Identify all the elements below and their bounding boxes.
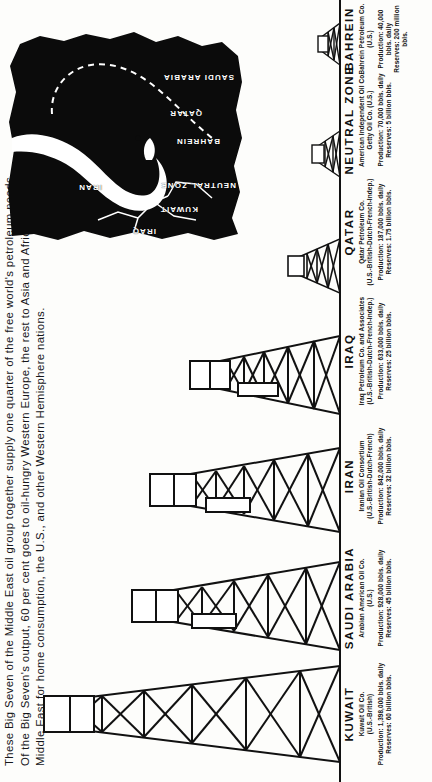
country-label-strip: KUWAIT Kuwait Oil Co. (U.S.-British) Pro… — [341, 0, 432, 782]
derrick-kuwait — [40, 662, 340, 766]
company-owners: (U.S.) — [366, 538, 374, 658]
derrick-iraq — [188, 332, 340, 418]
country-name: QATAR — [343, 170, 356, 294]
company-name: Iranian Oil Consortium — [358, 414, 366, 538]
derrick-crown-block — [288, 256, 304, 276]
derrick-saudi-arabia — [130, 558, 340, 654]
company-name: Arabian American Oil Co. — [358, 538, 366, 658]
derrick-qatar — [286, 236, 340, 296]
country-name: IRAQ — [343, 286, 356, 416]
column-iran: IRAN Iranian Oil Consortium (U.S.-Britis… — [343, 414, 393, 538]
country-name: KUWAIT — [343, 656, 356, 772]
country-name: NEUTRAL ZONE — [343, 60, 356, 180]
country-name: BAHREIN — [343, 2, 356, 76]
column-kuwait: KUWAIT Kuwait Oil Co. (U.S.-British) Pro… — [343, 656, 393, 772]
production-stat: Production: 842,000 bbls. daily — [377, 414, 385, 538]
derrick-mid-platform — [192, 614, 236, 628]
company-name: Qatar Petroleum Co. — [358, 170, 366, 294]
column-qatar: QATAR Qatar Petroleum Co. (U.S.-British-… — [343, 170, 393, 294]
reserves-stat: Reserves: 1.75 billion bbls. — [385, 170, 393, 294]
derrick-crown-block — [318, 36, 328, 52]
derrick-chart — [40, 0, 340, 782]
company-owners: (U.S.) — [366, 2, 374, 76]
company-name: American Independent Oil Co. — [358, 60, 366, 180]
reserves-stat: Reserves: 32 billion bbls. — [385, 414, 393, 538]
country-name: SAUDI ARABIA — [343, 538, 356, 658]
column-bahrein: BAHREIN Bahrein Petroleum Co. (U.S.) Pro… — [343, 2, 408, 76]
company-name: Kuwait Oil Co. — [358, 656, 366, 772]
company-owners: Getty Oil Co. (U.S.) — [366, 60, 374, 180]
derrick-saudi-arabia-tower — [130, 558, 340, 654]
column-saudi-arabia: SAUDI ARABIA Arabian American Oil Co. (U… — [343, 538, 393, 658]
production-stat: Production: 1,398,000 bbls. daily — [377, 656, 385, 772]
infographic-page: These Big Seven of the Middle East oil g… — [0, 0, 432, 782]
production-stat: Production: 928,000 bbls. daily — [377, 538, 385, 658]
production-stat: Production: 40,000 bbls. daily — [377, 2, 393, 76]
derrick-bahrein-tower — [316, 20, 340, 68]
column-iraq: IRAQ Iraq Petroleum Co. and Associates (… — [343, 286, 393, 416]
reserves-stat: Reserves: 5 billion bbls. — [385, 60, 393, 180]
derrick-qatar-tower — [286, 236, 340, 296]
country-name: IRAN — [343, 414, 356, 538]
derrick-iraq-tower — [188, 332, 340, 418]
company-owners: (U.S.-British-Dutch-French-Indep.) — [366, 170, 374, 294]
company-owners: (U.S.-British-Dutch-French) — [366, 414, 374, 538]
derrick-neutral-zone — [310, 128, 340, 180]
derrick-crown-block — [312, 145, 324, 163]
rotated-sheet: These Big Seven of the Middle East oil g… — [0, 0, 432, 782]
production-stat: Production: 633,000 bbls. daily — [377, 286, 385, 416]
reserves-stat: Reserves: 45 billion bbls. — [385, 538, 393, 658]
derrick-iran-tower — [148, 444, 340, 536]
derrick-kuwait-tower — [40, 662, 340, 766]
production-stat: Production: 187,000 bbls. daily — [377, 170, 385, 294]
derrick-iran — [148, 444, 340, 536]
derrick-mid-platform — [238, 383, 278, 396]
company-owners: (U.S.-British-Dutch-French-Indep.) — [366, 286, 374, 416]
derrick-mid-platform — [206, 498, 250, 512]
company-name: Iraq Petroleum Co. and Associates — [358, 286, 366, 416]
derrick-neutral-zone-tower — [310, 128, 340, 180]
column-neutral-zone: NEUTRAL ZONE American Independent Oil Co… — [343, 60, 393, 180]
reserves-stat: Reserves: 25 billion bbls. — [385, 286, 393, 416]
reserves-stat: Reserves: 200 million bbls. — [393, 2, 409, 76]
company-owners: (U.S.-British) — [366, 656, 374, 772]
reserves-stat: Reserves: 60 billion bbls. — [385, 656, 393, 772]
company-name: Bahrein Petroleum Co. — [358, 2, 366, 76]
derrick-bahrein — [316, 20, 340, 68]
production-stat: Production: 70,000 bbls. daily — [377, 60, 385, 180]
